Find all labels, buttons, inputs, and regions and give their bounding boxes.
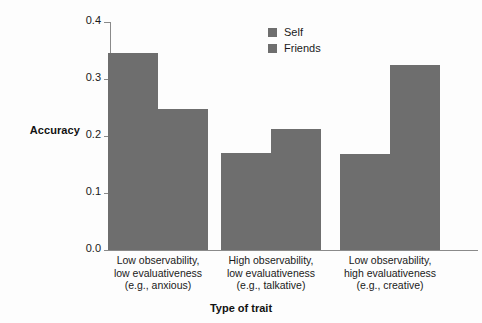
y-tick-label: 0.3 (86, 71, 101, 83)
bar-chart-figure: Accuracy 0.00.10.20.30.4 Low observabili… (0, 0, 482, 323)
x-axis-title: Type of trait (0, 302, 482, 314)
y-axis-title: Accuracy (8, 124, 80, 136)
y-tick-mark (104, 250, 110, 251)
legend-swatch-icon (268, 44, 277, 53)
y-tick-label: 0.1 (86, 185, 101, 197)
y-tick-label: 0.2 (86, 128, 101, 140)
y-tick-label: 0.4 (86, 14, 101, 26)
legend-item-self: Self (268, 24, 321, 40)
bar-self (221, 153, 271, 250)
bar-friends (271, 129, 321, 250)
chart-legend: SelfFriends (268, 24, 321, 56)
category-label-line: (e.g., creative) (310, 279, 470, 292)
bar-self (108, 53, 158, 250)
bar-group (221, 22, 321, 250)
bar-self (340, 154, 390, 250)
y-tick-label: 0.0 (86, 242, 101, 254)
category-label-line: Low observability, (310, 254, 470, 267)
x-axis-line (110, 250, 478, 251)
legend-swatch-icon (268, 28, 277, 37)
bar-friends (158, 109, 208, 250)
legend-item-friends: Friends (268, 40, 321, 56)
category-label: Low observability,high evaluativeness(e.… (310, 254, 470, 292)
bar-group (340, 22, 440, 250)
bar-group (108, 22, 208, 250)
bar-friends (390, 65, 440, 250)
legend-label: Friends (284, 42, 321, 54)
legend-label: Self (284, 26, 303, 38)
category-label-line: high evaluativeness (310, 267, 470, 280)
plot-area: 0.00.10.20.30.4 (110, 22, 478, 250)
